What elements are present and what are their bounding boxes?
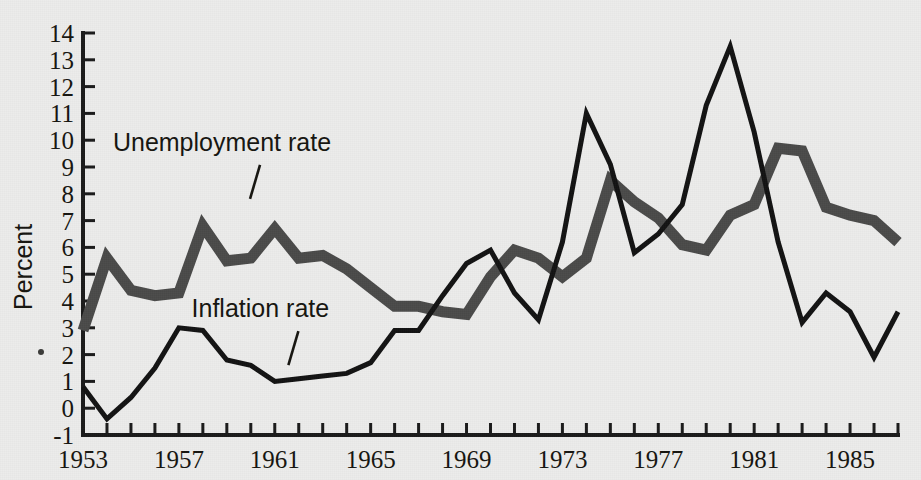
x-tick-label: 1961 <box>250 446 300 473</box>
annotation-label-1: Inflation rate <box>192 294 330 322</box>
chart-background <box>0 0 921 480</box>
y-tick-label: 7 <box>62 208 75 235</box>
y-tick-label: 1 <box>62 368 75 395</box>
y-tick-label: 14 <box>49 20 75 47</box>
y-axis-title: Percent <box>9 224 37 310</box>
x-tick-label: 1957 <box>154 446 204 473</box>
x-tick-label: 1969 <box>442 446 492 473</box>
annotation-label-0: Unemployment rate <box>113 128 331 156</box>
y-tick-label: 8 <box>62 181 75 208</box>
y-tick-label: 3 <box>62 315 75 342</box>
x-tick-label: 1981 <box>729 446 779 473</box>
x-axis-tick-labels: 195319571961196519691973197719811985 <box>58 446 875 473</box>
y-tick-label: 13 <box>49 47 74 74</box>
y-tick-label: 0 <box>62 395 75 422</box>
y-tick-label: 5 <box>62 261 75 288</box>
x-tick-label: 1985 <box>825 446 875 473</box>
x-tick-label: 1953 <box>58 446 108 473</box>
x-tick-label: 1965 <box>346 446 396 473</box>
x-tick-label: 1977 <box>633 446 683 473</box>
y-tick-label: 6 <box>62 234 75 261</box>
y-tick-label: 4 <box>62 288 75 315</box>
y-tick-label: 11 <box>50 100 74 127</box>
x-tick-label: 1973 <box>537 446 587 473</box>
scan-speck <box>38 349 44 355</box>
y-tick-label: 10 <box>49 127 74 154</box>
y-tick-label: 9 <box>62 154 75 181</box>
y-tick-label: -1 <box>53 422 74 449</box>
unemployment-inflation-chart: Percent -101234567891011121314 195319571… <box>0 0 921 480</box>
y-tick-label: 12 <box>49 74 74 101</box>
y-tick-label: 2 <box>62 342 75 369</box>
chart-canvas: Percent -101234567891011121314 195319571… <box>0 0 921 480</box>
